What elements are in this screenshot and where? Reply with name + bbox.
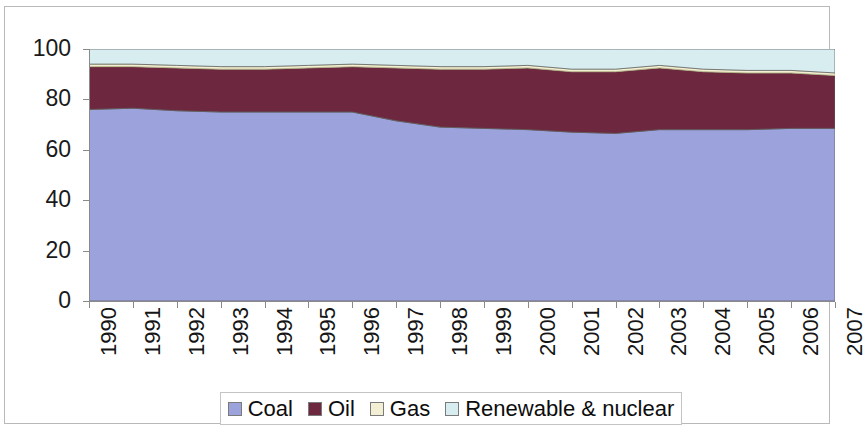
plot-area: [89, 49, 835, 301]
x-axis-tick-mark: [265, 302, 266, 308]
x-axis-tick-mark: [484, 302, 485, 308]
x-axis-tick-mark: [528, 302, 529, 308]
x-axis-tick-mark: [352, 302, 353, 308]
x-axis-labels: 1990199119921993199419951996199719981999…: [5, 307, 841, 377]
x-axis-tick-label: 1999: [493, 307, 515, 356]
x-axis-tick-label: 2000: [537, 307, 559, 356]
legend-swatch-icon: [228, 402, 242, 416]
x-axis-tick-label: 1996: [361, 307, 383, 356]
x-axis-tick-mark: [177, 302, 178, 308]
legend-item[interactable]: Coal: [228, 398, 293, 420]
y-axis-tick-label: 80: [45, 87, 71, 110]
x-axis-tick-mark: [396, 302, 397, 308]
x-axis-tick-mark: [616, 302, 617, 308]
x-axis-tick-mark: [747, 302, 748, 308]
x-axis-tick-mark: [221, 302, 222, 308]
y-axis-tick-label: 100: [33, 37, 71, 60]
x-axis-tick-label: 2005: [756, 307, 778, 356]
x-axis-line: [89, 301, 835, 302]
x-axis-tick-label: 1991: [142, 307, 164, 356]
x-axis-tick-mark: [791, 302, 792, 308]
legend-label: Renewable & nuclear: [465, 398, 674, 420]
x-axis-tick-label: 2007: [844, 307, 866, 356]
x-axis-tick-label: 2001: [581, 307, 603, 356]
legend-swatch-icon: [308, 402, 322, 416]
x-axis-tick-label: 2002: [625, 307, 647, 356]
chart-container: 100806040200 199019911992199319941995199…: [4, 6, 830, 424]
y-axis-labels: 100806040200: [5, 7, 83, 347]
x-axis-tick-label: 1998: [449, 307, 471, 356]
x-axis-tick-label: 1997: [405, 307, 427, 356]
legend-item[interactable]: Renewable & nuclear: [445, 398, 674, 420]
x-axis-tick-label: 1995: [317, 307, 339, 356]
x-axis-tick-label: 2003: [668, 307, 690, 356]
y-axis-tick-label: 60: [45, 138, 71, 161]
y-axis-tick-label: 20: [45, 239, 71, 262]
x-axis-tick-label: 1992: [186, 307, 208, 356]
x-axis-tick-mark: [835, 302, 836, 308]
chart-legend: CoalOilGasRenewable & nuclear: [220, 392, 682, 425]
y-axis-line: [89, 49, 90, 302]
x-axis-tick-label: 1993: [230, 307, 252, 356]
x-axis-tick-label: 2006: [800, 307, 822, 356]
x-axis-tick-label: 1994: [274, 307, 296, 356]
y-axis-tick-label: 40: [45, 188, 71, 211]
area-series-coal: [89, 108, 835, 301]
legend-item[interactable]: Gas: [370, 398, 430, 420]
stacked-area-plot: [89, 49, 835, 301]
y-axis-tick-mark: [83, 49, 90, 50]
y-axis-tick-mark: [83, 200, 90, 201]
x-axis-tick-mark: [703, 302, 704, 308]
y-axis-tick-mark: [83, 150, 90, 151]
x-axis-tick-mark: [659, 302, 660, 308]
legend-item[interactable]: Oil: [308, 398, 355, 420]
y-axis-tick-mark: [83, 251, 90, 252]
legend-label: Gas: [390, 398, 430, 420]
y-axis-tick-mark: [83, 99, 90, 100]
x-axis-tick-label: 2004: [712, 307, 734, 356]
legend-label: Oil: [328, 398, 355, 420]
x-axis-tick-mark: [440, 302, 441, 308]
x-axis-tick-label: 1990: [98, 307, 120, 356]
legend-label: Coal: [248, 398, 293, 420]
x-axis-tick-mark: [308, 302, 309, 308]
x-axis-tick-mark: [133, 302, 134, 308]
x-axis-tick-mark: [572, 302, 573, 308]
legend-swatch-icon: [445, 402, 459, 416]
x-axis-tick-mark: [89, 302, 90, 308]
legend-swatch-icon: [370, 402, 384, 416]
